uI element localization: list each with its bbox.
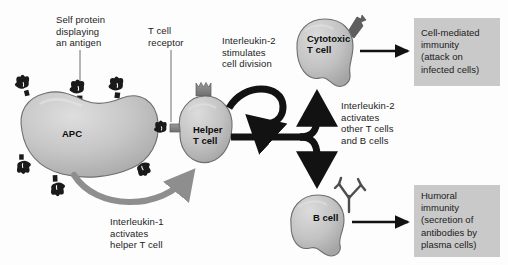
annotation-interleukin-2-stimulates-cell-division: Interleukin-2 stimulates cell division [222, 35, 276, 70]
outcome-text-humoral-immunity: Humoral immunity (secretion of antibodie… [421, 190, 477, 251]
helper-t-cell [179, 83, 232, 163]
interleukin-2-self-loop-arrow [229, 89, 283, 124]
helper-t-cell-branch-arrows [231, 98, 317, 180]
cell-label-helper-t-cell: Helper T cell [193, 124, 223, 146]
immune-response-diagram: Cell-mediated immunity (attack on infect… [0, 0, 508, 265]
annotation-t-cell-receptor: T cell receptor [148, 25, 184, 48]
annotation-interleukin-2-activates-other-cells: Interleukin-2 activates other T cells an… [341, 100, 395, 146]
outcome-text-cell-mediated-immunity: Cell-mediated immunity (attack on infect… [421, 27, 480, 76]
cell-label-cytotoxic-t-cell: Cytotoxic T cell [307, 33, 350, 55]
apc-cell [21, 92, 158, 177]
cell-label-apc: APC [62, 128, 82, 139]
interleukin-1-arrow [74, 175, 190, 202]
helper-t-cell-receptor [196, 83, 211, 97]
cell-label-b-cell: B cell [313, 212, 338, 223]
t-cell-receptor-junction [154, 121, 182, 133]
annotation-interleukin-1-activates-helper-t-cell: Interleukin-1 activates helper T cell [110, 216, 164, 251]
annotation-self-protein: Self protein displaying an antigen [56, 14, 105, 49]
